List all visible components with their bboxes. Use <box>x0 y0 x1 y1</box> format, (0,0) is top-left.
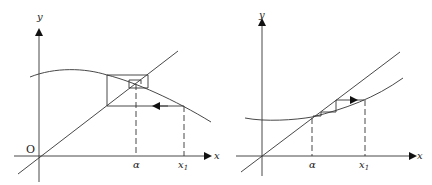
line-y-equals-x <box>241 52 400 172</box>
alpha-label: α <box>133 159 140 170</box>
x1-label: x1 <box>359 159 369 172</box>
alpha-label: α <box>309 159 316 170</box>
y-axis-label: y <box>258 9 265 20</box>
origin-label: O <box>26 143 35 156</box>
cobweb-diagrams: y x O α x1 y x α x1 <box>0 0 432 185</box>
y-axis-label: y <box>36 11 43 22</box>
cobweb-path <box>107 75 184 106</box>
left-panel: y x O α x1 <box>14 11 220 182</box>
x-axis-label: x <box>417 150 423 161</box>
x-axis-label: x <box>214 150 220 161</box>
right-panel: y x α x1 <box>236 9 423 176</box>
cobweb-path <box>313 100 364 116</box>
curve-g <box>30 70 211 122</box>
x1-label: x1 <box>178 159 188 172</box>
curve-g <box>245 78 403 120</box>
